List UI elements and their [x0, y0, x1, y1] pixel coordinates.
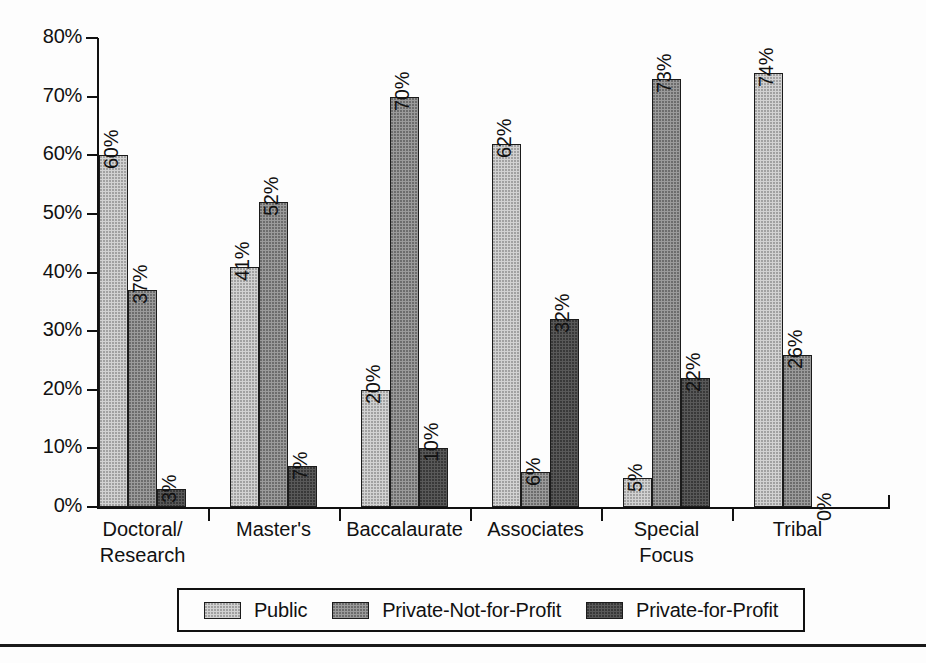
- x-axis-category-label: Associates: [468, 516, 603, 542]
- bar-public: [230, 267, 259, 507]
- bar-value-label: 60%: [100, 130, 123, 169]
- legend-item-public[interactable]: Public: [204, 599, 307, 622]
- legend-swatch-private-not-for-profit: [332, 602, 369, 619]
- bar-private-for-profit: [681, 378, 710, 507]
- bar-value-label: 74%: [755, 48, 778, 87]
- bar-chart: 0%10%20%30%40%50%60%70%80% 60%37%3%41%52…: [0, 0, 926, 663]
- bar-private-not-for-profit: [390, 97, 419, 507]
- bar-public: [361, 390, 390, 507]
- bars-layer: [0, 0, 926, 507]
- bar-value-label: 26%: [784, 329, 807, 368]
- legend-swatch-private-for-profit: [586, 602, 623, 619]
- bar-private-not-for-profit: [783, 355, 812, 507]
- bar-public: [492, 144, 521, 507]
- legend-item-private-for-profit[interactable]: Private-for-Profit: [586, 599, 778, 622]
- legend-item-label: Public: [254, 599, 307, 622]
- bar-value-label: 6%: [522, 458, 545, 486]
- bar-value-label: 73%: [653, 54, 676, 93]
- x-axis-line: [97, 507, 890, 509]
- bar-value-label: 22%: [682, 353, 705, 392]
- bar-private-not-for-profit: [259, 202, 288, 507]
- legend-item-private-not-for-profit[interactable]: Private-Not-for-Profit: [332, 599, 561, 622]
- bar-public: [99, 155, 128, 507]
- bar-value-label: 5%: [624, 463, 647, 491]
- bar-value-label: 37%: [129, 265, 152, 304]
- bar-value-label: 70%: [391, 71, 414, 110]
- chart-page: 0%10%20%30%40%50%60%70%80% 60%37%3%41%52…: [0, 0, 926, 663]
- x-axis-category-label: Doctoral/ Research: [75, 516, 210, 568]
- bar-value-label: 20%: [362, 365, 385, 404]
- x-axis-category-label: Master's: [206, 516, 341, 542]
- x-axis-category-label: Tribal: [730, 516, 865, 542]
- bar-public: [754, 73, 783, 507]
- bar-value-label: 41%: [231, 241, 254, 280]
- page-divider-rule: [0, 644, 926, 647]
- bar-value-label: 10%: [420, 423, 443, 462]
- bar-value-label: 32%: [551, 294, 574, 333]
- bar-value-label: 3%: [158, 475, 181, 503]
- x-axis-category-label: Baccalaurate: [337, 516, 472, 542]
- x-axis-category-label: Special Focus: [599, 516, 734, 568]
- bar-value-label: 7%: [289, 452, 312, 480]
- bar-private-for-profit: [550, 319, 579, 507]
- bar-private-not-for-profit: [128, 290, 157, 507]
- legend-item-label: Private-Not-for-Profit: [382, 599, 561, 622]
- bar-private-not-for-profit: [652, 79, 681, 507]
- legend-item-label: Private-for-Profit: [636, 599, 778, 622]
- bar-value-label: 62%: [493, 118, 516, 157]
- chart-legend: PublicPrivate-Not-for-ProfitPrivate-for-…: [177, 588, 805, 632]
- bar-value-label: 52%: [260, 177, 283, 216]
- legend-swatch-public: [204, 602, 241, 619]
